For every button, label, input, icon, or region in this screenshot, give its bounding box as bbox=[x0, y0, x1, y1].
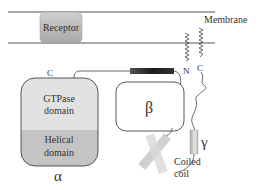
receptor: Receptor bbox=[40, 12, 82, 43]
helical-domain-label-2: domain bbox=[44, 147, 74, 158]
alpha-c-linker bbox=[74, 71, 130, 78]
n-terminus-label: N bbox=[183, 66, 190, 76]
coiled-coil-label-1: Coiled bbox=[174, 156, 201, 167]
membrane-label: Membrane bbox=[204, 14, 248, 25]
receptor-label: Receptor bbox=[43, 22, 80, 33]
lipid-anchor-n-icon bbox=[185, 33, 189, 61]
helical-domain-label-1: Helical bbox=[45, 134, 74, 145]
gamma-symbol: γ bbox=[200, 134, 208, 150]
c-terminus-label: C bbox=[197, 63, 203, 73]
helix-bar bbox=[130, 68, 174, 74]
beta-subunit: β bbox=[116, 82, 184, 131]
alpha-c-terminus-label: C bbox=[47, 68, 53, 78]
g-protein-diagram: Receptor Membrane N C GTPase domain Heli… bbox=[0, 0, 261, 190]
coiled-coil-label-2: coil bbox=[174, 168, 189, 179]
gtpase-domain-label-2: domain bbox=[44, 105, 74, 116]
beta-symbol: β bbox=[145, 99, 153, 117]
gamma-linker bbox=[192, 72, 206, 137]
gtpase-domain-label-1: GTPase bbox=[43, 93, 75, 104]
alpha-subunit: GTPase domain Helical domain α C bbox=[21, 68, 98, 184]
alpha-symbol: α bbox=[54, 168, 62, 184]
